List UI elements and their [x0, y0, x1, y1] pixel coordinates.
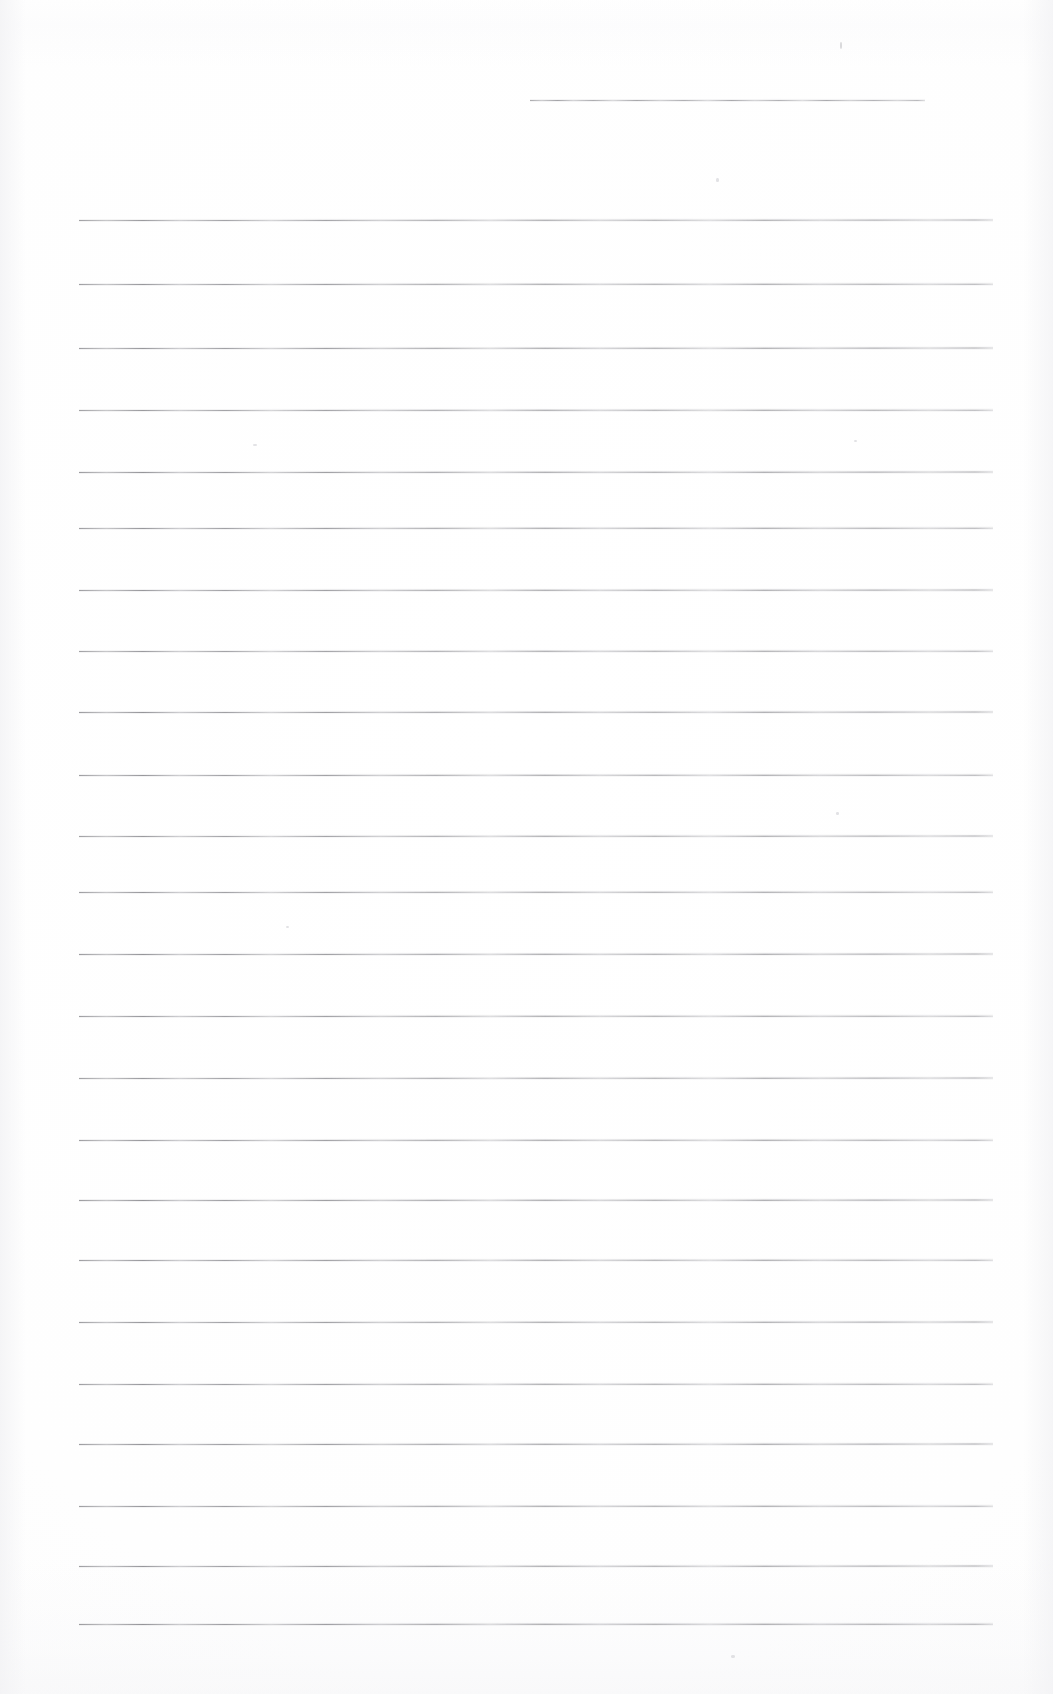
scan-speck	[836, 812, 839, 815]
scanned-page	[0, 0, 1053, 1694]
scan-speck	[731, 1655, 735, 1658]
scan-speck	[840, 42, 842, 49]
scan-speck	[286, 926, 289, 928]
scan-artifacts-layer	[0, 0, 1053, 1694]
scan-speck	[716, 178, 719, 182]
scan-speck	[854, 440, 857, 442]
scan-speck	[253, 444, 257, 446]
